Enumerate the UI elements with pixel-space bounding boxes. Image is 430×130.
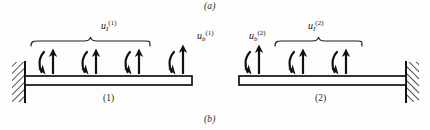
brace-interface-1 xyxy=(31,37,150,46)
beam-1 xyxy=(25,76,192,85)
brace-interface-2 xyxy=(275,37,362,46)
dof-pair-1-2 xyxy=(81,49,100,75)
boundary-dof-label-1: ub(1) xyxy=(197,30,214,43)
figure-container: (a) (b) (1) (2) uI(1) ub(1) ub(2) uI(2) xyxy=(0,0,430,130)
fixed-support-right xyxy=(406,61,419,103)
boundary-dof-label-2: ub(2) xyxy=(249,30,266,43)
dof-pair-2-1 xyxy=(288,49,307,75)
beam-label-1: (1) xyxy=(103,93,114,103)
beam-label-2: (2) xyxy=(315,93,326,103)
ub2-sup: (2) xyxy=(258,29,266,37)
uI2-sup: (2) xyxy=(315,19,323,27)
beam-2 xyxy=(239,76,406,85)
dof-pair-1-1 xyxy=(38,49,57,75)
interface-dof-label-1: uI(1) xyxy=(101,20,117,33)
part-label-b: (b) xyxy=(204,114,216,124)
dof-pair-boundary-2 xyxy=(244,45,263,75)
ub1-sup: (1) xyxy=(206,29,214,37)
uI1-sup: (1) xyxy=(108,19,116,27)
interface-dof-label-2: uI(2) xyxy=(308,20,324,33)
dof-pair-2-2 xyxy=(331,49,350,75)
dof-pair-1-3 xyxy=(124,49,143,75)
figure-line-art xyxy=(0,0,430,130)
fixed-support-left xyxy=(12,61,25,103)
part-label-a: (a) xyxy=(204,1,216,11)
dof-pair-boundary-1 xyxy=(168,45,187,75)
